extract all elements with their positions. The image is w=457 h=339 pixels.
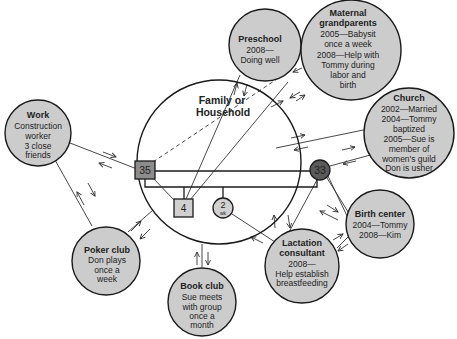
svg-text:member of: member of: [389, 144, 430, 154]
svg-text:month: month: [190, 320, 214, 330]
node-preschool[interactable]: Preschool 2008— Doing well: [229, 9, 301, 81]
line-mother-lactation: [289, 178, 318, 232]
node-work[interactable]: Work Construction worker 3 close friends: [5, 100, 71, 166]
svg-text:Construction: Construction: [14, 121, 62, 131]
book-club-title: Book club: [180, 281, 224, 291]
line-family-church-1: [276, 128, 373, 148]
mother-age: 33: [314, 164, 326, 176]
grandparents-title-2: grandparents: [319, 18, 377, 28]
svg-text:Don plays: Don plays: [88, 255, 126, 265]
birth-center-title: Birth center: [355, 209, 406, 219]
svg-text:breastfeeding: breastfeeding: [276, 278, 328, 288]
node-birth-center[interactable]: Birth center 2004—Tommy 2008—Kim: [346, 190, 414, 258]
daughter-age-unit: wk: [220, 210, 227, 216]
sibship-line: [145, 177, 317, 187]
poker-club-title: Poker club: [84, 245, 131, 255]
line-father-grandparents-dashed: [153, 73, 286, 162]
svg-text:labor and: labor and: [330, 70, 366, 80]
node-book-club[interactable]: Book club Sue meets with group once a mo…: [168, 268, 236, 336]
son-node[interactable]: 4: [174, 199, 193, 217]
node-lactation-consultant[interactable]: Lactation consultant 2008— Help establis…: [265, 229, 339, 303]
father-node[interactable]: 35: [135, 161, 155, 179]
household-title-line1: Family or: [199, 94, 246, 106]
svg-text:2008—Help with: 2008—Help with: [317, 50, 380, 60]
svg-text:2002—Married: 2002—Married: [381, 104, 437, 114]
work-title: Work: [27, 110, 50, 120]
svg-text:Tommy during: Tommy during: [321, 60, 375, 70]
line-mother-church: [330, 154, 374, 166]
daughter-age: 2: [220, 200, 225, 210]
mother-node[interactable]: 33: [310, 160, 330, 180]
svg-text:2008—: 2008—: [246, 45, 274, 55]
lactation-title-1: Lactation: [282, 238, 322, 248]
svg-text:worker: worker: [24, 131, 51, 141]
line-father-son: [151, 176, 175, 201]
svg-text:2004—Tommy: 2004—Tommy: [353, 220, 409, 230]
node-maternal-grandparents[interactable]: Maternal grandparents 2005—Babysit once …: [301, 0, 401, 100]
svg-text:2008—Kim: 2008—Kim: [359, 230, 401, 240]
svg-text:week: week: [96, 274, 118, 284]
svg-text:Sue meets: Sue meets: [182, 292, 223, 302]
svg-text:2008—: 2008—: [288, 259, 316, 269]
svg-text:Don is usher: Don is usher: [385, 163, 433, 173]
ecomap-diagram: Family or Household 35 33 4 2 wk: [0, 0, 457, 339]
line-work-poker: [55, 160, 92, 226]
son-age: 4: [181, 203, 187, 214]
grandparents-title-1: Maternal: [329, 8, 366, 18]
daughter-node[interactable]: 2 wk: [213, 198, 233, 218]
svg-text:birth: birth: [340, 80, 357, 90]
svg-text:2004—Tommy: 2004—Tommy: [382, 114, 438, 124]
svg-text:2005—Babysit: 2005—Babysit: [320, 29, 376, 39]
line-mother-birth-2: [327, 178, 350, 215]
family-household-circle: Family or Household 35 33 4 2 wk: [135, 80, 330, 244]
node-church[interactable]: Church 2002—Married 2004—Tommy baptized …: [364, 88, 454, 178]
church-title: Church: [393, 93, 425, 103]
household-title-line2: Household: [196, 106, 250, 118]
svg-text:Doing well: Doing well: [240, 55, 279, 65]
preschool-title: Preschool: [238, 34, 282, 44]
svg-text:once a week: once a week: [324, 39, 372, 49]
svg-text:2005—Sue is: 2005—Sue is: [383, 134, 434, 144]
svg-text:friends: friends: [25, 150, 51, 160]
node-poker-club[interactable]: Poker club Don plays once a week: [72, 227, 140, 295]
svg-text:baptized: baptized: [393, 124, 425, 134]
father-age: 35: [139, 164, 151, 176]
lactation-title-2: consultant: [279, 248, 325, 258]
